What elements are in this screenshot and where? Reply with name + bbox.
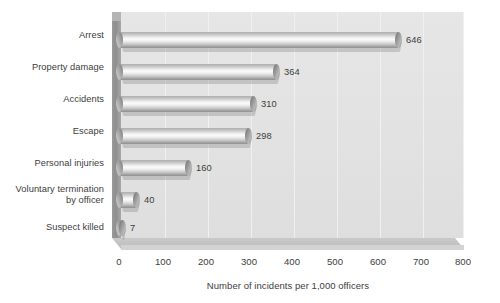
x-tick-500: 500	[327, 256, 343, 268]
x-axis-title: Number of incidents per 1,000 officers	[112, 280, 464, 291]
bar-value-arrest: 646	[406, 36, 422, 45]
bar-value-suspect-killed: 7	[130, 224, 135, 233]
category-label-accidents: Accidents	[0, 94, 104, 105]
bar-left-cap	[116, 64, 123, 80]
bar-value-property-damage: 364	[284, 68, 300, 77]
bar-arrest[interactable]	[119, 32, 398, 48]
bar-right-cap	[273, 64, 280, 80]
value-axis-ticks: 0 100 200 300 400 500 600 700 800	[112, 256, 472, 270]
bar-body	[119, 96, 253, 112]
bar-right-cap	[185, 160, 192, 176]
x-tick-100: 100	[155, 256, 171, 268]
category-label-personal-injuries: Personal injuries	[0, 158, 104, 169]
bar-left-cap	[116, 96, 123, 112]
bar-right-cap	[133, 192, 140, 208]
bar-body	[119, 160, 188, 176]
bar-value-escape: 298	[256, 132, 272, 141]
x-tick-600: 600	[370, 256, 386, 268]
bar-voluntary-termination[interactable]	[119, 192, 136, 208]
category-label-property-damage: Property damage	[0, 62, 104, 73]
bar-left-cap	[116, 192, 123, 208]
category-label-suspect-killed: Suspect killed	[0, 222, 104, 233]
bar-suspect-killed[interactable]	[119, 220, 122, 236]
x-tick-300: 300	[241, 256, 257, 268]
bar-right-cap	[250, 96, 257, 112]
bar-right-cap	[245, 128, 252, 144]
x-tick-800: 800	[455, 256, 471, 268]
bar-accidents[interactable]	[119, 96, 253, 112]
x-tick-700: 700	[413, 256, 429, 268]
bar-body	[119, 32, 398, 48]
x-tick-200: 200	[198, 256, 214, 268]
x-tick-400: 400	[284, 256, 300, 268]
bar-personal-injuries[interactable]	[119, 160, 188, 176]
category-label-voluntary-termination: Voluntary termination by officer	[0, 184, 104, 205]
bars-layer: 646 364 310	[112, 12, 464, 249]
plot-area: 646 364 310	[112, 12, 464, 254]
category-label-arrest: Arrest	[0, 30, 104, 41]
bar-left-cap	[116, 128, 123, 144]
bar-body	[119, 128, 248, 144]
bar-value-voluntary-termination: 40	[144, 196, 155, 205]
bar-escape[interactable]	[119, 128, 248, 144]
bar-body	[119, 64, 276, 80]
category-axis-labels: Arrest Property damage Accidents Escape …	[0, 14, 108, 242]
category-label-escape: Escape	[0, 126, 104, 137]
bar-left-cap	[116, 32, 123, 48]
x-tick-0: 0	[116, 256, 121, 268]
bar-left-cap	[116, 160, 123, 176]
bar-right-cap	[119, 220, 126, 236]
bar-value-personal-injuries: 160	[196, 164, 212, 173]
bar-chart: Arrest Property damage Accidents Escape …	[0, 0, 500, 303]
bar-value-accidents: 310	[261, 100, 277, 109]
bar-property-damage[interactable]	[119, 64, 276, 80]
bar-right-cap	[395, 32, 402, 48]
